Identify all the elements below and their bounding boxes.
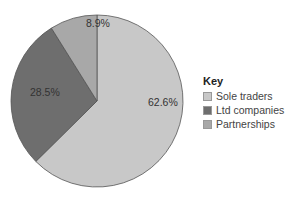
legend-swatch — [203, 120, 212, 129]
legend: Key Sole traders Ltd companies Partnersh… — [203, 75, 284, 131]
pie-chart: 62.6%28.5%8.9% — [0, 0, 200, 201]
slice-label: 28.5% — [30, 86, 60, 98]
legend-item-sole-traders: Sole traders — [203, 89, 284, 103]
legend-item-ltd-companies: Ltd companies — [203, 103, 284, 117]
slice-label: 62.6% — [148, 96, 178, 108]
legend-item-partnerships: Partnerships — [203, 117, 284, 131]
slice-label: 8.9% — [86, 17, 110, 29]
legend-title: Key — [203, 75, 284, 87]
legend-swatch — [203, 92, 212, 101]
legend-swatch — [203, 106, 212, 115]
